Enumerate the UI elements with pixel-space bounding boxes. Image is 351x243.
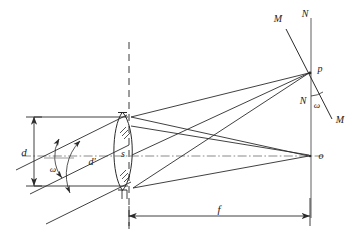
image-point-p-label: p — [317, 63, 323, 74]
aperture-diameter-label: d — [21, 146, 27, 158]
image-point-o-label: o — [319, 150, 324, 161]
normal-bottom-label: N — [299, 95, 308, 106]
image-point-p-marker — [309, 72, 312, 75]
field-angle-right-label: ω — [314, 100, 320, 110]
optics-diagram-canvas: s N N M M ω — [0, 0, 351, 243]
effective-aperture-label: d' — [88, 156, 96, 167]
optical-diagram-figure: s N N M M ω — [0, 0, 351, 243]
image-point-o-marker — [309, 155, 311, 157]
lens-glass-label: s — [121, 148, 125, 159]
field-angle-left-label: ω — [50, 164, 56, 174]
tilted-plane-bottom-label: M — [335, 114, 345, 125]
tilted-plane-top-label: M — [273, 13, 283, 24]
diagram-background — [0, 0, 351, 243]
normal-top-label: N — [301, 8, 310, 19]
